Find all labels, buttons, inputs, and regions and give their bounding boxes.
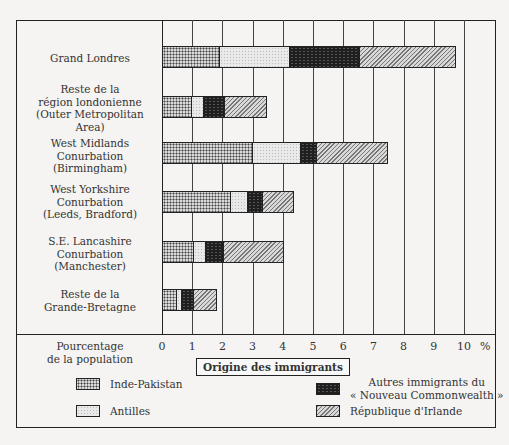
bar-segment [193, 290, 217, 310]
bar-segment [223, 242, 283, 262]
bar-segment [252, 143, 300, 163]
x-tick-label: 6 [340, 340, 347, 353]
bar-segment [203, 97, 224, 117]
legend-label: Autres immigrants du « Nouveau Commonwea… [350, 376, 503, 401]
stacked-bar [162, 96, 267, 118]
row-label: S.E. Lancashire Conurbation (Manchester) [22, 235, 158, 273]
inde-pakistan-swatch-icon [76, 378, 100, 390]
x-tick-label: 10 [457, 340, 471, 353]
stacked-bar [162, 191, 294, 213]
bar-segment [205, 242, 223, 262]
row-label: Grand Londres [22, 52, 158, 65]
legend-item-inde-pakistan: Inde-Pakistan [76, 378, 183, 391]
x-tick-label: 3 [249, 340, 256, 353]
bar-segment [181, 290, 193, 310]
x-tick-label: 4 [279, 340, 286, 353]
bar-segment [262, 192, 293, 212]
x-tick-label: 0 [159, 340, 166, 353]
irlande-swatch-icon [316, 405, 340, 417]
x-axis-unit: % [480, 340, 490, 353]
legend-title: Origine des immigrants [196, 358, 350, 376]
stacked-bar [162, 46, 456, 68]
bar-segment [163, 242, 193, 262]
autres-commonwealth-swatch-icon [316, 383, 340, 395]
row-label: Reste de la Grande-Bretagne [22, 288, 158, 313]
x-tick-label: 5 [310, 340, 317, 353]
bar-segment [163, 143, 252, 163]
x-tick-label: 2 [219, 340, 226, 353]
legend-label: Antilles [110, 405, 150, 418]
axis-divider [16, 334, 496, 335]
x-tick-label: 9 [430, 340, 437, 353]
legend-label: Inde-Pakistan [110, 378, 183, 391]
x-axis-title: Pourcentage de la population [22, 340, 158, 365]
legend-item-antilles: Antilles [76, 405, 150, 418]
bar-segment [247, 192, 262, 212]
row-label: Reste de la région londonienne (Outer Me… [22, 83, 158, 133]
x-tick-label: 1 [189, 340, 196, 353]
legend-label: République d'Irlande [350, 405, 462, 418]
gridline [464, 20, 465, 334]
stacked-bar [162, 241, 284, 263]
bar-segment [163, 97, 191, 117]
bar-segment [163, 192, 230, 212]
stacked-bar [162, 142, 388, 164]
legend-item-irlande: République d'Irlande [316, 405, 462, 418]
row-label: West Midlands Conurbation (Birmingham) [22, 137, 158, 175]
legend-item-autres-commonwealth: Autres immigrants du « Nouveau Commonwea… [316, 376, 503, 401]
bar-segment [289, 47, 358, 67]
antilles-swatch-icon [76, 405, 100, 417]
x-tick-label: 7 [370, 340, 377, 353]
bar-segment [191, 97, 203, 117]
bar-segment [193, 242, 205, 262]
bar-segment [219, 47, 290, 67]
bar-segment [163, 47, 219, 67]
bar-segment [316, 143, 387, 163]
bar-segment [224, 97, 266, 117]
row-label: West Yorkshire Conurbation (Leeds, Bradf… [22, 183, 158, 221]
stacked-bar [162, 289, 217, 311]
bar-segment [230, 192, 246, 212]
bar-segment [359, 47, 455, 67]
bar-segment [300, 143, 317, 163]
bar-segment [163, 290, 176, 310]
x-tick-label: 8 [400, 340, 407, 353]
